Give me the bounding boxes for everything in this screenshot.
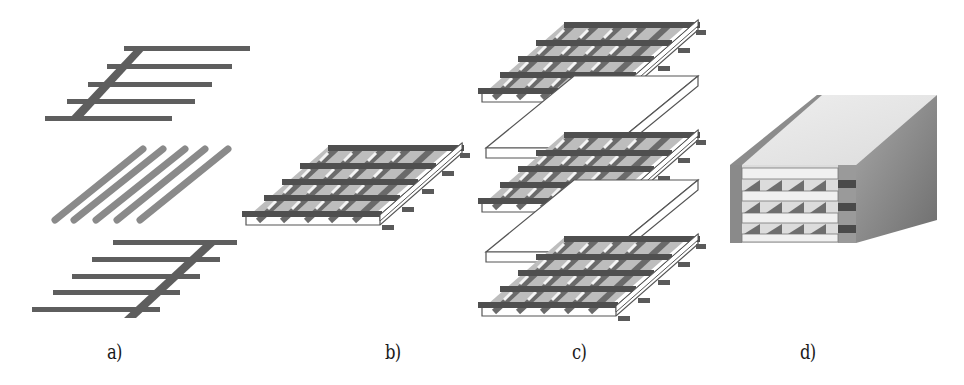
- bottom-comb-electrode: [32, 240, 237, 318]
- panel-label-d: d): [800, 340, 815, 364]
- multilayer-structure-figure: [0, 0, 964, 385]
- panel-b-single-grid-layer: [242, 143, 470, 230]
- panel-label-c: c): [572, 340, 586, 364]
- panel-label-a: a): [107, 340, 122, 364]
- panel-c-layer-stack: [478, 20, 706, 321]
- diagonal-rods: [55, 149, 228, 220]
- panel-a-exploded-components: [32, 46, 250, 318]
- panel-label-b: b): [385, 340, 400, 364]
- panel-d-encapsulated-block: [730, 95, 937, 243]
- top-comb-electrode: [45, 46, 250, 121]
